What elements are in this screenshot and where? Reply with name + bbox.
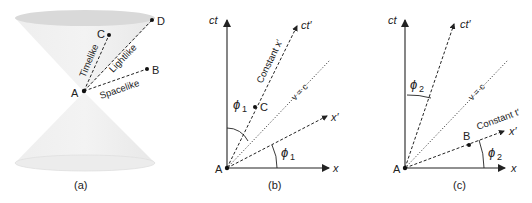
svg-text:1: 1 bbox=[290, 152, 295, 162]
svg-text:ϕ: ϕ bbox=[488, 145, 495, 160]
ct-prime-axis bbox=[405, 24, 454, 168]
future-cone-rim bbox=[15, 10, 155, 26]
label-x-prime: x′ bbox=[330, 111, 340, 123]
angle-phi1-top: ϕ 1 bbox=[233, 97, 247, 114]
label-a: A bbox=[393, 163, 401, 175]
angle-phi2-top: ϕ 2 bbox=[410, 77, 424, 94]
point-a bbox=[403, 166, 407, 170]
angle-arc-bottom bbox=[479, 140, 484, 168]
point-c bbox=[107, 33, 111, 37]
label-x: x bbox=[332, 162, 339, 174]
angle-arc-top bbox=[407, 95, 431, 98]
svg-text:2: 2 bbox=[419, 84, 424, 94]
panel-c-boost-diagram: ct ct′ x′ x A B Constant t′ v = c ϕ 2 ϕ … bbox=[388, 14, 521, 191]
angle-arc-top bbox=[227, 128, 248, 141]
svg-text:2: 2 bbox=[497, 152, 502, 162]
label-x: x bbox=[510, 162, 517, 174]
label-a: A bbox=[71, 87, 79, 99]
svg-text:ϕ: ϕ bbox=[233, 97, 240, 112]
past-cone-rim bbox=[15, 155, 155, 171]
label-c: C bbox=[97, 28, 105, 40]
label-b: B bbox=[463, 130, 470, 142]
point-b bbox=[145, 67, 149, 71]
label-c: C bbox=[260, 101, 268, 113]
point-b bbox=[467, 143, 471, 147]
label-constant-x-prime: Constant x′ bbox=[254, 37, 285, 84]
point-a bbox=[225, 166, 229, 170]
label-a: A bbox=[215, 163, 223, 175]
label-ct-prime: ct′ bbox=[301, 19, 313, 31]
past-cone bbox=[15, 92, 155, 163]
label-b: B bbox=[152, 64, 159, 76]
point-d bbox=[150, 18, 154, 22]
caption-a: (a) bbox=[74, 179, 87, 191]
angle-phi1-bottom: ϕ 1 bbox=[281, 145, 295, 162]
angle-arc-bottom bbox=[272, 145, 277, 168]
point-c bbox=[253, 105, 257, 109]
svg-text:1: 1 bbox=[242, 104, 247, 114]
label-light-line: v = c bbox=[466, 81, 487, 102]
svg-text:ϕ: ϕ bbox=[281, 145, 288, 160]
point-a bbox=[82, 89, 86, 93]
label-spacelike: Spacelike bbox=[98, 77, 141, 101]
label-d: D bbox=[157, 15, 165, 27]
svg-text:ϕ: ϕ bbox=[410, 77, 417, 92]
panel-b-boost-diagram: ct ct′ x′ x A C Constant x′ v = c ϕ 1 ϕ … bbox=[209, 14, 340, 191]
caption-b: (b) bbox=[268, 179, 281, 191]
angle-phi2-bottom: ϕ 2 bbox=[488, 145, 502, 162]
panel-a-light-cone: A C D B Timelike Lightlike Spacelike (a) bbox=[15, 10, 165, 191]
caption-c: (c) bbox=[453, 179, 466, 191]
label-x-prime: x′ bbox=[508, 125, 518, 137]
light-line bbox=[227, 60, 330, 168]
label-ct: ct bbox=[209, 14, 219, 26]
label-ct-prime: ct′ bbox=[460, 18, 472, 30]
label-light-line: v = c bbox=[289, 81, 310, 102]
label-ct: ct bbox=[388, 14, 398, 26]
spacetime-diagram: A C D B Timelike Lightlike Spacelike (a)… bbox=[0, 0, 532, 203]
